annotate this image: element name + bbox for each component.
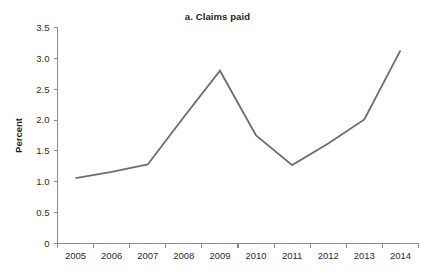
y-tick-label: 3.0	[36, 53, 49, 64]
line-chart-plot: 00.51.01.52.02.53.03.5 20052006200720082…	[0, 0, 435, 276]
y-tick-label: 2.5	[36, 84, 49, 95]
x-tick-label: 2013	[354, 250, 375, 261]
x-tick-label: 2012	[318, 250, 339, 261]
y-axis-ticks: 00.51.01.52.02.53.03.5	[36, 22, 57, 249]
y-tick-label: 2.0	[36, 114, 49, 125]
x-tick-label: 2007	[137, 250, 158, 261]
x-tick-label: 2010	[245, 250, 266, 261]
y-axis-title: Percent	[13, 117, 24, 153]
x-tick-label: 2014	[390, 250, 411, 261]
y-tick-label: 0.5	[36, 207, 49, 218]
x-tick-label: 2006	[101, 250, 122, 261]
y-tick-label: 1.5	[36, 145, 49, 156]
chart-figure: a. Claims paid 00.51.01.52.02.53.03.5 20…	[0, 0, 435, 276]
x-tick-label: 2011	[282, 250, 302, 261]
y-tick-label: 1.0	[36, 176, 49, 187]
claims-paid-series-line	[76, 50, 401, 178]
y-tick-label: 3.5	[36, 22, 49, 33]
x-tick-label: 2005	[65, 250, 86, 261]
x-axis-ticks: 2005200620072008200920102011201220132014	[58, 244, 419, 261]
x-tick-label: 2008	[173, 250, 194, 261]
x-tick-label: 2009	[209, 250, 230, 261]
y-tick-label: 0	[44, 238, 49, 249]
